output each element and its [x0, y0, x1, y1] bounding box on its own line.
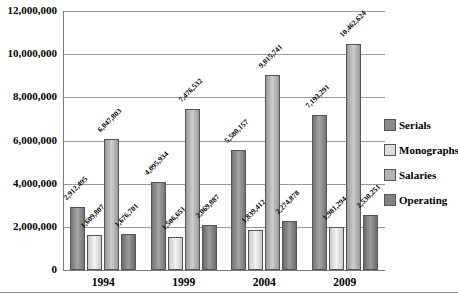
- bar-salaries-2004: [265, 75, 280, 270]
- y-axis-tick-label: 12,000,000: [0, 4, 57, 17]
- y-axis-tick-label: 10,000,000: [0, 47, 57, 60]
- bar-operating-2004: [282, 221, 297, 270]
- legend-label: Operating: [399, 194, 447, 206]
- bar-value-label: 10,462,624: [338, 10, 368, 40]
- x-axis-category-label: 1994: [63, 276, 144, 289]
- bar-salaries-1994: [104, 139, 119, 270]
- bar-salaries-2009: [346, 44, 361, 270]
- bar-serials-1994: [70, 207, 85, 270]
- legend-item-salaries: Salaries: [384, 169, 458, 181]
- bar-monographs-1994: [87, 235, 102, 270]
- bar-value-label: 7,476,532: [177, 77, 204, 104]
- x-axis-category-label: 2004: [224, 276, 305, 289]
- bar-monographs-2009: [329, 227, 344, 270]
- legend: SerialsMonographsSalariesOperating: [384, 119, 458, 219]
- bar-operating-2009: [363, 215, 378, 270]
- bar-serials-2004: [231, 150, 246, 270]
- bar-chart-figure: SerialsMonographsSalariesOperating 02,00…: [0, 0, 458, 302]
- gridline: [63, 54, 385, 55]
- bar-value-label: 9,015,741: [258, 44, 285, 71]
- gridline: [63, 11, 385, 12]
- bar-monographs-2004: [248, 230, 263, 270]
- y-axis-line: [63, 11, 64, 270]
- legend-item-operating: Operating: [384, 194, 458, 206]
- legend-item-serials: Serials: [384, 119, 458, 131]
- x-axis-line: [63, 270, 385, 271]
- bar-value-label: 7,193,291: [304, 83, 331, 110]
- x-axis-category-label: 1999: [144, 276, 225, 289]
- bar-operating-1999: [202, 225, 217, 270]
- bar-operating-1994: [121, 234, 136, 270]
- y-axis-tick-label: 8,000,000: [0, 90, 57, 103]
- bar-value-label: 6,047,803: [97, 108, 124, 135]
- legend-marker-icon: [384, 119, 396, 131]
- bar-salaries-1999: [185, 109, 200, 270]
- y-axis-tick-label: 4,000,000: [0, 177, 57, 190]
- legend-marker-icon: [384, 169, 396, 181]
- bar-serials-2009: [312, 115, 327, 270]
- chart-bottom-border: [0, 292, 458, 293]
- bar-value-label: 2,912,495: [63, 175, 90, 202]
- legend-label: Salaries: [399, 169, 436, 181]
- legend-item-monographs: Monographs: [384, 144, 458, 156]
- y-axis-tick-label: 2,000,000: [0, 220, 57, 233]
- bar-value-label: 4,095,934: [143, 150, 170, 177]
- legend-label: Serials: [399, 119, 431, 131]
- bar-monographs-1999: [168, 237, 183, 270]
- x-axis-category-label: 2009: [305, 276, 386, 289]
- legend-marker-icon: [384, 194, 396, 206]
- legend-marker-icon: [384, 144, 396, 156]
- gridline: [63, 97, 385, 98]
- legend-label: Monographs: [399, 144, 458, 156]
- y-axis-tick-label: 6,000,000: [0, 134, 57, 147]
- y-axis-tick-label: 0: [0, 263, 57, 276]
